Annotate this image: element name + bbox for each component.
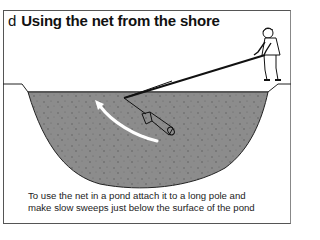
caption-line: make slow sweeps just below the surface …	[28, 202, 288, 214]
person-icon	[254, 28, 281, 80]
figure-caption: To use the net in a pond attach it to a …	[28, 190, 288, 214]
caption-line: To use the net in a pond attach it to a …	[28, 190, 288, 202]
